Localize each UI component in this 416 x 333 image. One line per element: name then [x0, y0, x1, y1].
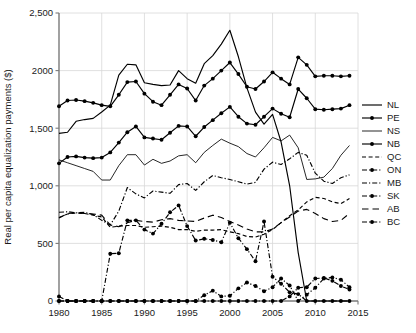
data-point	[330, 279, 334, 283]
data-point	[305, 285, 309, 289]
data-point	[322, 108, 326, 112]
legend-label: AB	[387, 203, 400, 214]
data-point	[100, 299, 104, 303]
data-point	[66, 155, 70, 159]
data-point	[348, 74, 352, 78]
data-point	[245, 122, 249, 126]
data-point	[296, 55, 300, 59]
legend-swatch-marker	[370, 220, 374, 224]
data-point	[228, 294, 232, 298]
legend-swatch-marker	[370, 168, 374, 172]
data-point	[108, 104, 112, 108]
data-point	[305, 299, 309, 303]
data-point	[279, 77, 283, 81]
data-point	[288, 294, 292, 298]
data-point	[279, 282, 283, 286]
data-point	[322, 299, 326, 303]
data-point	[194, 239, 198, 243]
x-tick-label: 1980	[48, 307, 69, 318]
data-point	[142, 135, 146, 139]
data-point	[151, 137, 155, 141]
y-tick-label: 1,500	[29, 123, 53, 134]
data-point	[322, 277, 326, 281]
data-point	[296, 292, 300, 296]
data-point	[254, 284, 258, 288]
data-point	[296, 87, 300, 91]
data-point	[202, 84, 206, 88]
data-point	[330, 74, 334, 78]
data-point	[228, 299, 232, 303]
data-point	[151, 232, 155, 236]
chart-background	[0, 0, 416, 333]
data-point	[57, 161, 61, 165]
data-point	[57, 294, 61, 298]
data-point	[288, 284, 292, 288]
y-axis-title-text: Real per capita equalization payments ($…	[2, 69, 13, 244]
data-point	[245, 299, 249, 303]
data-point	[313, 74, 317, 78]
data-point	[108, 150, 112, 154]
data-point	[117, 141, 121, 145]
data-point	[100, 156, 104, 160]
data-point	[211, 299, 215, 303]
y-tick-label: 500	[37, 238, 53, 249]
legend-label: QC	[387, 151, 401, 162]
data-point	[125, 299, 129, 303]
data-point	[296, 286, 300, 290]
data-point	[211, 118, 215, 122]
data-point	[271, 107, 275, 111]
data-point	[219, 111, 223, 115]
data-point	[91, 101, 95, 105]
legend-swatch-marker	[370, 142, 374, 146]
y-axis-title: Real per capita equalization payments ($…	[2, 69, 13, 244]
data-point	[202, 293, 206, 297]
data-point	[339, 299, 343, 303]
data-point	[177, 124, 181, 128]
data-point	[279, 277, 283, 281]
data-point	[254, 123, 258, 127]
data-point	[194, 134, 198, 138]
data-point	[288, 290, 292, 294]
data-point	[160, 299, 164, 303]
data-point	[236, 299, 240, 303]
y-tick-label: 2000	[32, 65, 53, 76]
data-point	[348, 285, 352, 289]
data-point	[254, 87, 258, 91]
data-point	[117, 251, 121, 255]
data-point	[236, 286, 240, 290]
data-point	[142, 92, 146, 96]
x-tick-label: 2010	[305, 307, 326, 318]
data-point	[279, 112, 283, 116]
legend-label: MB	[387, 177, 401, 188]
legend-label: NB	[387, 138, 400, 149]
data-point	[219, 299, 223, 303]
x-tick-label: 1995	[177, 307, 198, 318]
data-point	[177, 203, 181, 207]
x-tick-label: 2000	[219, 307, 240, 318]
data-point	[313, 277, 317, 281]
data-point	[305, 293, 309, 297]
data-point	[211, 77, 215, 81]
data-point	[245, 281, 249, 285]
data-point	[83, 99, 87, 103]
data-point	[271, 70, 275, 74]
data-point	[142, 299, 146, 303]
data-point	[339, 107, 343, 111]
legend-label: NS	[387, 125, 400, 136]
data-point	[330, 299, 334, 303]
data-point	[254, 259, 258, 263]
data-point	[202, 237, 206, 241]
data-point	[228, 105, 232, 109]
data-point	[160, 103, 164, 107]
data-point	[339, 278, 343, 282]
data-point	[151, 100, 155, 104]
data-point	[91, 299, 95, 303]
data-point	[236, 72, 240, 76]
data-point	[339, 284, 343, 288]
data-point	[330, 107, 334, 111]
legend-label: NL	[387, 99, 399, 110]
data-point	[185, 299, 189, 303]
data-point	[339, 74, 343, 78]
data-point	[305, 96, 309, 100]
data-point	[66, 99, 70, 103]
